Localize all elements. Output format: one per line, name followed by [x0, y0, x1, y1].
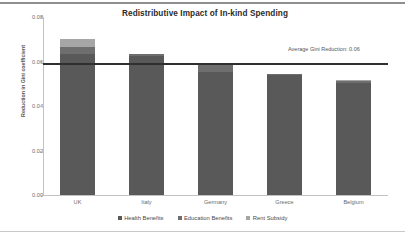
bar-segment-education-benefits	[198, 64, 233, 72]
average-line	[43, 63, 388, 65]
x-tick-label-germany: Germany	[204, 199, 227, 205]
plot-area	[43, 17, 388, 195]
legend-swatch-icon	[246, 216, 250, 220]
x-tick-label-uk: UK	[74, 199, 82, 205]
bar-segment-education-benefits	[336, 81, 371, 83]
scan-artifact-bottom	[0, 231, 405, 232]
y-axis-ticks: 0.000.020.040.060.08	[0, 0, 43, 234]
chart-legend: Health BenefitsEducation BenefitsRent Su…	[0, 215, 405, 221]
bar-segment-education-benefits	[60, 47, 95, 54]
bar-segment-health-benefits	[336, 83, 371, 195]
legend-item-rent-subsidy[interactable]: Rent Subsidy	[246, 215, 287, 221]
x-tick-label-greece: Greece	[275, 199, 293, 205]
bar-segment-health-benefits	[60, 54, 95, 195]
legend-label: Rent Subsidy	[253, 215, 287, 221]
scan-artifact-top	[0, 2, 405, 4]
chart-container: Redistributive Impact of In-kind Spendin…	[0, 0, 405, 234]
legend-label: Education Benefits	[184, 215, 232, 221]
x-tick-label-italy: Italy	[141, 199, 151, 205]
bar-segment-rent-subsidy	[60, 39, 95, 47]
bar-italy[interactable]	[129, 54, 164, 195]
x-axis-line	[43, 195, 388, 196]
average-line-label: Average Gini Reduction: 0.06	[288, 46, 360, 52]
legend-item-health-benefits[interactable]: Health Benefits	[118, 215, 164, 221]
bar-segment-health-benefits	[198, 72, 233, 195]
legend-label: Health Benefits	[124, 215, 163, 221]
bar-segment-education-benefits	[129, 54, 164, 56]
x-tick-label-belgium: Belgium	[343, 199, 363, 205]
bar-germany[interactable]	[198, 63, 233, 195]
legend-item-education-benefits[interactable]: Education Benefits	[178, 215, 233, 221]
legend-swatch-icon	[118, 216, 122, 220]
bar-segment-health-benefits	[129, 56, 164, 195]
bar-segment-health-benefits	[267, 75, 302, 195]
bar-segment-education-benefits	[267, 74, 302, 75]
bar-greece[interactable]	[267, 74, 302, 195]
bar-belgium[interactable]	[336, 80, 371, 195]
legend-swatch-icon	[178, 216, 182, 220]
